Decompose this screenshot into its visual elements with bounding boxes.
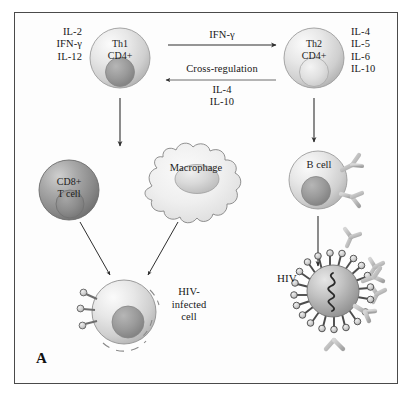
infected-label-line1: HIV- [163, 286, 215, 299]
arrow-macrophage-to-infected [148, 222, 178, 275]
virion-bound-antibody-3 [326, 327, 343, 349]
arrow-label-cross-regulation: Cross-regulation [172, 63, 272, 75]
macrophage-label: Macrophage [157, 162, 235, 174]
macrophage-graphic [145, 143, 241, 223]
th1-cell-label: Th1 CD4+ [95, 38, 145, 61]
figure-panel-a: IL-2 IFN-γ IL-12 IL-4 IL-5 IL-6 IL-10 Th… [0, 0, 413, 401]
hiv-infected-cell-label: HIV- infected cell [163, 286, 215, 324]
cd8-label-line1: CD8+ [44, 176, 94, 188]
th1-cytokine-list: IL-2 IFN-γ IL-12 [24, 26, 82, 63]
th1-cytokine-2: IFN-γ [24, 38, 82, 50]
th2-label-line1: Th2 [289, 38, 339, 50]
th1-label-line2: CD4+ [95, 50, 145, 62]
th1-cytokine-3: IL-12 [24, 51, 82, 63]
cd8-cell-label: CD8+ T cell [44, 176, 94, 199]
infected-label-line2: infected [163, 299, 215, 312]
cross-reg-cytokine-1: IL-4 [186, 84, 258, 96]
cross-regulation-cytokines: IL-4 IL-10 [186, 84, 258, 109]
th1-label-line1: Th1 [95, 38, 145, 50]
bcell-label: B cell [297, 159, 341, 171]
cross-reg-cytokine-2: IL-10 [186, 96, 258, 108]
th2-label-line2: CD4+ [289, 50, 339, 62]
th2-cytokine-3: IL-6 [351, 51, 407, 63]
hiv-virion-label: HIV [272, 272, 302, 285]
arrow-cd8-to-infected [80, 222, 110, 275]
th1-cytokine-1: IL-2 [24, 26, 82, 38]
hiv-virion-graphic [291, 250, 374, 333]
panel-letter: A [36, 350, 47, 367]
infected-label-line3: cell [163, 311, 215, 324]
free-antibody-1 [345, 229, 360, 246]
hiv-infected-cell-graphic [77, 280, 159, 351]
bcell-surface-antibody-2 [341, 193, 362, 206]
bcell-surface-antibody-1 [342, 155, 362, 170]
th2-cytokine-1: IL-4 [351, 26, 407, 38]
th2-cell-label: Th2 CD4+ [289, 38, 339, 61]
th2-cytokine-4: IL-10 [351, 63, 407, 75]
cd8-label-line2: T cell [44, 188, 94, 200]
arrow-label-ifn-gamma: IFN-γ [182, 29, 262, 41]
th2-cytokine-list: IL-4 IL-5 IL-6 IL-10 [351, 26, 407, 76]
th2-cytokine-2: IL-5 [351, 38, 407, 50]
